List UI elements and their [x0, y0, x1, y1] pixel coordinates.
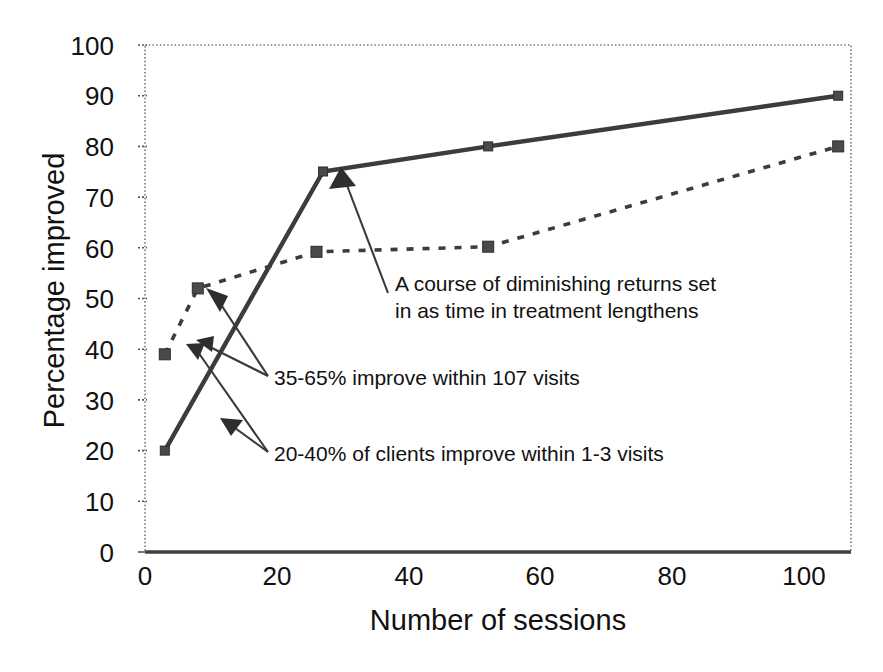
- data-point-marker: [483, 241, 494, 252]
- data-point-marker: [311, 246, 322, 257]
- x-tick-label-100: 100: [774, 561, 834, 592]
- y-tick-label-90: 90: [54, 81, 114, 112]
- annotation-arrow-early-second: [220, 418, 268, 452]
- data-point-marker: [834, 91, 843, 100]
- y-axis-title: Percentage improved: [38, 131, 71, 451]
- y-tick-label-100: 100: [54, 31, 114, 62]
- data-point-marker: [160, 446, 169, 455]
- data-point-marker: [484, 142, 493, 151]
- annotation-20-40-percent: 20-40% of clients improve within 1-3 vis…: [274, 440, 664, 467]
- chart-figure: 100 90 80 70 60 50 40 30 20 10 0 0 20 40…: [0, 0, 883, 672]
- series-dashed-markers: [159, 141, 843, 360]
- annotation-arrow-mid-second: [196, 336, 268, 376]
- data-point-marker: [159, 349, 170, 360]
- data-point-marker: [833, 141, 844, 152]
- annotation-diminishing-returns: A course of diminishing returns set in a…: [395, 270, 716, 324]
- x-tick-label-20: 20: [247, 561, 307, 592]
- x-tick-label-40: 40: [379, 561, 439, 592]
- x-axis-title: Number of sessions: [145, 604, 851, 637]
- x-tick-label-0: 0: [115, 561, 175, 592]
- y-tick-label-0: 0: [54, 538, 114, 569]
- x-tick-label-80: 80: [642, 561, 702, 592]
- annotation-35-65-percent: 35-65% improve within 107 visits: [274, 364, 580, 391]
- data-point-marker: [319, 167, 328, 176]
- x-tick-label-60: 60: [510, 561, 570, 592]
- y-tick-label-10: 10: [54, 487, 114, 518]
- annotation-arrow-diminishing: [329, 167, 388, 293]
- data-point-marker: [192, 283, 203, 294]
- annotation-arrow-early: [186, 343, 268, 452]
